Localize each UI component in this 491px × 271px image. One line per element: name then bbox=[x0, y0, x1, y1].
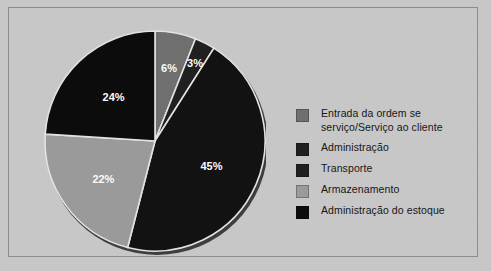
pie-slice-value-label: 6% bbox=[161, 62, 177, 74]
legend-label-administracao-do-estoque: Administração do estoque bbox=[321, 204, 445, 218]
legend-label-armazenamento: Armazenamento bbox=[321, 183, 399, 197]
legend-swatch-icon-administracao bbox=[296, 143, 309, 156]
pie-chart-svg: 6%3%45%22%24% bbox=[36, 22, 266, 262]
pie-chart: 6%3%45%22%24% bbox=[36, 22, 266, 262]
legend-label-entrada-da-ordem: Entrada da ordem se serviço/Serviço ao c… bbox=[321, 107, 443, 134]
pie-slice[interactable] bbox=[45, 31, 155, 141]
legend-item-armazenamento[interactable]: Armazenamento bbox=[296, 183, 486, 200]
legend-item-entrada-da-ordem[interactable]: Entrada da ordem se serviço/Serviço ao c… bbox=[296, 107, 486, 137]
screenshot-root: 6%3%45%22%24% Entrada da ordem se serviç… bbox=[0, 0, 491, 271]
pie-slice-group bbox=[45, 31, 265, 251]
legend-item-administracao-do-estoque[interactable]: Administração do estoque bbox=[296, 204, 486, 221]
legend-label-transporte: Transporte bbox=[321, 162, 372, 176]
pie-slice-value-label: 22% bbox=[92, 173, 114, 185]
legend-item-administracao[interactable]: Administração bbox=[296, 141, 486, 158]
chart-frame: 6%3%45%22%24% Entrada da ordem se serviç… bbox=[8, 7, 478, 257]
pie-slice-value-label: 3% bbox=[187, 57, 203, 69]
legend-item-transporte[interactable]: Transporte bbox=[296, 162, 486, 179]
legend-label-administracao: Administração bbox=[321, 141, 389, 155]
legend-swatch-icon-administracao-do-estoque bbox=[296, 206, 309, 219]
legend-swatch-icon-transporte bbox=[296, 164, 309, 177]
legend-swatch-icon-entrada-da-ordem bbox=[296, 109, 309, 122]
legend-swatch-icon-armazenamento bbox=[296, 185, 309, 198]
pie-slice-value-label: 45% bbox=[200, 160, 222, 172]
pie-slice-value-label: 24% bbox=[103, 91, 125, 103]
legend: Entrada da ordem se serviço/Serviço ao c… bbox=[296, 107, 486, 225]
